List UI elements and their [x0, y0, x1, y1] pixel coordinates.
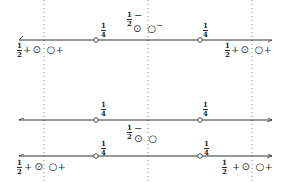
half-fraction: 12 [17, 159, 22, 175]
half-plus-label-right: 12 + ⊙ ○ + [222, 159, 273, 175]
plus-sign: + [264, 45, 272, 55]
half-fraction: 12 [17, 42, 22, 58]
open-circle-icon: ○ [47, 45, 56, 55]
plus-sign: + [265, 162, 273, 172]
open-circle-icon: ○ [256, 162, 265, 172]
quarter-label: 14 [204, 140, 209, 156]
arrow-left-icon [19, 36, 23, 40]
half-plus-label-left: 12 + ⊙ ○ + [17, 159, 66, 175]
minus-sign: − [134, 11, 142, 21]
plus-sign: + [232, 162, 240, 172]
open-circle-icon: ○ [147, 24, 156, 34]
plus-sign: + [56, 45, 64, 55]
half-fraction: 12 [127, 124, 132, 140]
dot-circle-icon: ⊙ [240, 45, 248, 55]
number-line-3 [19, 154, 272, 159]
open-circle-icon: ○ [49, 162, 58, 172]
number-line-2 [19, 118, 272, 123]
plus-sign: + [24, 162, 32, 172]
half-fraction: 12 [225, 42, 230, 58]
dot-circle-icon: ⊙ [34, 162, 42, 172]
quarter-label: 14 [203, 22, 208, 38]
dot-circle-icon: ⊙ [133, 24, 141, 34]
top-middle-symbols: ⊙ ○ − [133, 24, 163, 34]
dot-circle-icon: ⊙ [241, 162, 249, 172]
quarter-label: 14 [203, 101, 208, 117]
dot-circle-icon: ⊙ [32, 45, 40, 55]
quarter-label: 14 [101, 101, 106, 117]
open-circle-icon: ○ [255, 45, 264, 55]
open-point [94, 154, 99, 159]
bottom-middle-symbols: ⊙ ○ [134, 134, 157, 144]
open-point [198, 38, 203, 43]
open-point [94, 38, 99, 43]
superscript-minus: − [156, 21, 163, 31]
plus-sign: + [231, 45, 239, 55]
open-point [198, 118, 203, 123]
half-plus-label-left: 12 + ⊙ ○ + [17, 42, 64, 58]
half-fraction: 12 [127, 11, 132, 27]
plus-sign: + [58, 162, 66, 172]
dot-circle-icon: ⊙ [134, 134, 142, 144]
quarter-label: 14 [101, 22, 106, 38]
open-point [94, 118, 99, 123]
plus-sign: + [23, 45, 31, 55]
half-plus-label-right: 12 + ⊙ ○ + [225, 42, 272, 58]
open-point [198, 154, 203, 159]
half-fraction: 12 [222, 159, 227, 175]
open-circle-icon: ○ [148, 134, 157, 144]
quarter-label: 14 [101, 140, 106, 156]
